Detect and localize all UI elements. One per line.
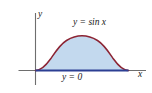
x-axis-label: x: [138, 70, 142, 80]
curve-equation-label: y = sin x: [73, 18, 106, 28]
y-axis-label: y: [38, 10, 42, 20]
shaded-area-under-curve: [36, 36, 129, 71]
figure-container: y = sin x y = 0 y x: [0, 0, 152, 93]
baseline-equation-label: y = 0: [62, 73, 82, 83]
